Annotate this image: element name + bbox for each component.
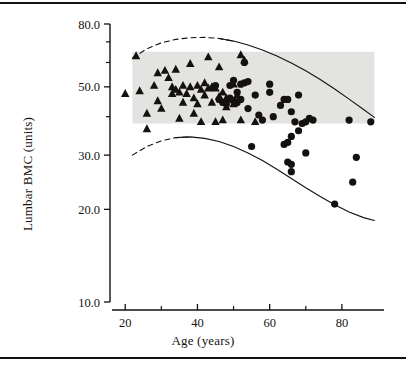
x-tick-label: 40	[191, 316, 204, 330]
data-point-circle	[309, 116, 316, 123]
data-point-circle	[288, 161, 295, 168]
data-point-circle	[244, 105, 251, 112]
data-point-circle	[295, 127, 302, 134]
x-tick-label: 60	[263, 316, 276, 330]
data-point-circle	[288, 133, 295, 140]
data-point-circle	[270, 113, 277, 120]
data-point-circle	[291, 118, 298, 125]
data-point-circle	[212, 82, 219, 89]
y-tick-label: 20.0	[78, 203, 100, 217]
x-tick-label: 80	[336, 316, 349, 330]
y-tick-label: 10.0	[78, 296, 100, 310]
x-tick-label: 20	[119, 316, 132, 330]
x-axis-title: Age (years)	[0, 333, 406, 349]
data-point-circle	[259, 116, 266, 123]
y-tick-label: 50.0	[78, 80, 100, 94]
data-point-circle	[277, 102, 284, 109]
lower-percentile-curve-dashed	[132, 137, 190, 155]
data-point-circle	[241, 59, 248, 66]
data-point-circle	[230, 77, 237, 84]
data-point-circle	[288, 108, 295, 115]
scatter-plot-svg: 10.020.030.050.080.020406080	[0, 0, 406, 371]
y-tick-label: 80.0	[78, 18, 100, 32]
data-point-circle	[302, 149, 309, 156]
data-point-circle	[248, 143, 255, 150]
data-point-circle	[349, 179, 356, 186]
figure-container: 10.020.030.050.080.020406080 Age (years)…	[0, 0, 406, 371]
data-point-circle	[234, 89, 241, 96]
data-point-circle	[367, 118, 374, 125]
data-point-circle	[237, 96, 244, 103]
data-point-triangle	[143, 124, 151, 132]
data-point-circle	[266, 89, 273, 96]
y-tick-label: 30.0	[78, 149, 100, 163]
reference-band	[132, 52, 374, 124]
data-point-circle	[284, 96, 291, 103]
data-point-circle	[346, 116, 353, 123]
data-point-circle	[331, 200, 338, 207]
data-point-triangle	[121, 89, 129, 97]
data-point-circle	[288, 168, 295, 175]
y-axis-title: Lumbar BMC (units)	[20, 74, 36, 274]
data-point-circle	[252, 92, 259, 99]
data-point-circle	[295, 92, 302, 99]
data-point-circle	[266, 81, 273, 88]
lower-percentile-curve-solid	[176, 137, 375, 221]
data-point-circle	[244, 78, 251, 85]
data-point-circle	[353, 154, 360, 161]
normal-range-shaded-band	[132, 52, 374, 124]
